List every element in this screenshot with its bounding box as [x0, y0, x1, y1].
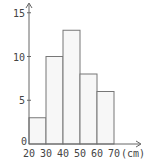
x-tick-label: 40: [57, 148, 69, 159]
x-axis-unit-label: (cm): [121, 148, 145, 159]
bars: [29, 30, 114, 144]
x-tick-label: 50: [74, 148, 86, 159]
histogram-chart: 051015 203040506070 (cm): [0, 0, 153, 168]
bar-50-60: [80, 74, 97, 144]
x-axis-ticks: 203040506070: [23, 148, 120, 159]
bar-20-30: [29, 118, 46, 144]
y-tick-label: 0: [21, 136, 27, 147]
bar-30-40: [46, 57, 63, 145]
y-tick-label: 10: [13, 52, 25, 63]
x-tick-label: 70: [108, 148, 120, 159]
x-tick-label: 60: [91, 148, 103, 159]
x-tick-label: 20: [23, 148, 35, 159]
x-tick-label: 30: [40, 148, 52, 159]
y-tick-label: 15: [13, 8, 25, 19]
y-axis-ticks: 051015: [13, 8, 31, 147]
bar-40-50: [63, 30, 80, 144]
y-tick-label: 5: [19, 95, 25, 106]
bar-60-70: [97, 92, 114, 145]
